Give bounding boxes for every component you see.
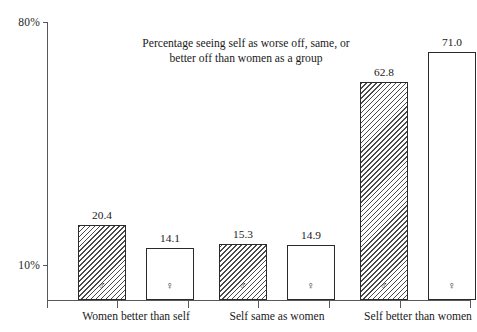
x-tick-mark-4 <box>258 301 259 308</box>
bar-value-men-self-same-as-women: 15.3 <box>219 228 267 240</box>
bar-value-women-self-same-as-women: 14.9 <box>287 229 335 241</box>
bar-value-men-self-better-than-women: 62.8 <box>360 66 408 78</box>
x-tick-mark-3 <box>188 301 189 308</box>
bar-men-self-same-as-women <box>219 244 267 300</box>
bar-symbol-male-group-1: ♂ <box>78 281 126 292</box>
bar-symbol-female-group-3: ♀ <box>428 281 476 292</box>
bar-women-self-same-as-women <box>287 245 335 300</box>
y-tick-mark-10 <box>43 265 48 266</box>
x-axis-line <box>47 300 471 301</box>
x-tick-mark-2 <box>117 301 118 308</box>
bar-value-women-women-better-than-self: 14.1 <box>146 232 194 244</box>
x-tick-mark-6 <box>400 301 401 308</box>
bar-men-self-better-than-women <box>360 82 408 300</box>
bar-value-women-self-better-than-women: 71.0 <box>428 36 476 48</box>
x-tick-mark-5 <box>329 301 330 308</box>
bar-symbol-male-group-3: ♂ <box>360 281 408 292</box>
chart-title: Percentage seeing self as worse off, sam… <box>113 36 379 66</box>
x-tick-mark-1 <box>47 301 48 308</box>
x-category-label-self-better-than-women: Self better than women <box>308 310 477 323</box>
bar-value-men-women-better-than-self: 20.4 <box>78 209 126 221</box>
chart-title-line-1: Percentage seeing self as worse off, sam… <box>113 36 379 51</box>
y-axis-line <box>47 22 48 301</box>
bar-women-self-better-than-women <box>428 52 476 300</box>
bar-chart: Percentage seeing self as worse off, sam… <box>0 0 477 332</box>
x-tick-mark-7 <box>470 301 471 308</box>
y-tick-label-80: 80% <box>0 16 40 28</box>
bar-symbol-male-group-2: ♂ <box>219 281 267 292</box>
y-tick-mark-80 <box>43 22 48 23</box>
y-tick-label-10: 10% <box>0 259 40 271</box>
chart-title-line-2: better off than women as a group <box>113 51 379 66</box>
bar-symbol-female-group-1: ♀ <box>146 281 194 292</box>
bar-symbol-female-group-2: ♀ <box>287 281 335 292</box>
bar-women-women-better-than-self <box>146 248 194 300</box>
